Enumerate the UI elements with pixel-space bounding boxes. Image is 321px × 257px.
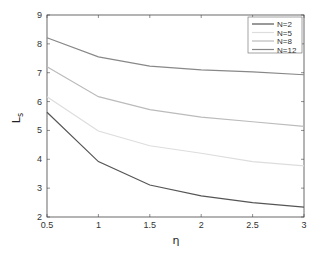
x-tick-label: 1 (96, 220, 101, 230)
y-tick-label: 4 (37, 154, 42, 164)
x-tick-label: 1.5 (144, 220, 157, 230)
x-tick-label: 3 (301, 220, 306, 230)
svg-text:Ls: Ls (10, 113, 25, 123)
y-tick-label: 8 (37, 39, 42, 49)
legend: N=2N=5N=8N=12 (248, 17, 302, 55)
y-tick-label: 3 (37, 183, 42, 193)
y-axis-label: Ls (10, 113, 25, 123)
x-tick-label: 2.5 (246, 220, 259, 230)
line-chart: 0.511.522.5323456789 η Ls N=2N=5N=8N=12 (0, 0, 321, 257)
y-tick-label: 2 (37, 212, 42, 222)
y-tick-label: 5 (37, 125, 42, 135)
y-tick-label: 7 (37, 68, 42, 78)
y-tick-label: 9 (37, 10, 42, 20)
y-tick-label: 6 (37, 97, 42, 107)
x-tick-label: 2 (199, 220, 204, 230)
legend-label: N=12 (277, 46, 297, 55)
x-axis-label: η (173, 234, 180, 247)
x-tick-label: 0.5 (41, 220, 54, 230)
